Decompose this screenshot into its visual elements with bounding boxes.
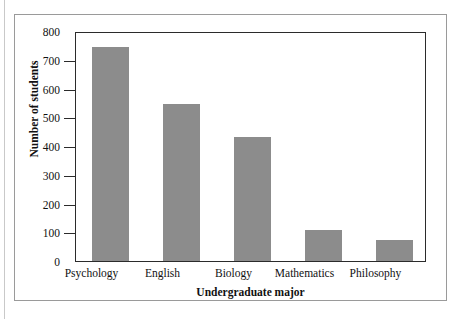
y-tick-label-800: 800 bbox=[16, 27, 60, 39]
y-tick-mark-300 bbox=[64, 176, 75, 177]
scan-edge-line bbox=[4, 0, 5, 319]
plot-area bbox=[75, 32, 426, 262]
y-tick-label-200: 200 bbox=[16, 200, 60, 212]
y-tick-mark-400 bbox=[64, 147, 75, 148]
y-tick-label-300: 300 bbox=[16, 171, 60, 183]
y-tick-mark-200 bbox=[64, 205, 75, 206]
x-tick-label-philosophy: Philosophy bbox=[324, 267, 428, 279]
y-tick-mark-100 bbox=[64, 233, 75, 234]
bar-psychology bbox=[92, 47, 129, 261]
bar-philosophy bbox=[376, 240, 413, 261]
y-tick-mark-600 bbox=[64, 90, 75, 91]
y-axis-title: Number of students bbox=[28, 49, 40, 169]
bar-chart: 800 700 600 500 400 300 200 100 0 Number… bbox=[15, 15, 448, 302]
figure-frame: 800 700 600 500 400 300 200 100 0 Number… bbox=[14, 14, 447, 301]
y-tick-mark-700 bbox=[64, 61, 75, 62]
bar-english bbox=[163, 104, 200, 261]
y-tick-mark-500 bbox=[64, 118, 75, 119]
bars-layer bbox=[76, 33, 425, 261]
x-axis-title: Undergraduate major bbox=[75, 286, 426, 298]
bar-mathematics bbox=[305, 230, 342, 261]
y-tick-label-100: 100 bbox=[16, 228, 60, 240]
bar-biology bbox=[234, 137, 271, 261]
